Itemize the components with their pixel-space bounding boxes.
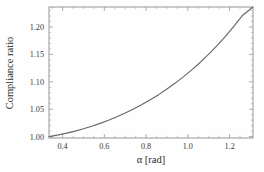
x-tick-label: 1.2 (224, 142, 234, 151)
x-tick-label: 0.6 (99, 142, 109, 151)
compliance-ratio-line-chart: 0.40.60.81.01.2 1.001.051.101.151.20 α [… (0, 0, 264, 172)
y-tick-label: 1.20 (30, 23, 44, 32)
y-tick-label: 1.15 (30, 50, 44, 59)
x-tick-label: 0.4 (57, 142, 67, 151)
y-tick-label: 1.10 (30, 78, 44, 87)
x-tick-label: 0.8 (141, 142, 151, 151)
x-axis-title: α [rad] (137, 154, 166, 165)
y-axis-title: Compliance ratio (4, 37, 15, 110)
y-tick-label: 1.05 (30, 105, 44, 114)
chart-figure: 0.40.60.81.01.2 1.001.051.101.151.20 α [… (0, 0, 264, 172)
y-tick-label: 1.00 (30, 133, 44, 142)
x-tick-label: 1.0 (183, 142, 193, 151)
